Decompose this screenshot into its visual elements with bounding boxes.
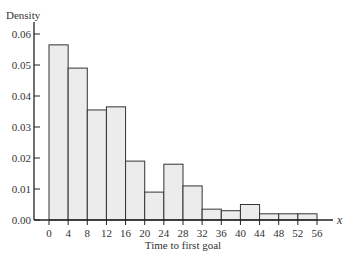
- histogram-bar: [49, 45, 68, 220]
- histogram-bar: [183, 186, 202, 220]
- histogram-bar: [145, 192, 164, 220]
- y-tick-label: 0.02: [12, 152, 31, 164]
- x-tick-label: 56: [312, 227, 324, 239]
- histogram-bar: [260, 214, 279, 220]
- x-tick-label: 4: [65, 227, 71, 239]
- histogram-bar: [87, 110, 106, 220]
- x-tick-label: 36: [216, 227, 228, 239]
- histogram-bar: [240, 205, 259, 221]
- x-tick-label: 28: [178, 227, 190, 239]
- histogram-bar: [68, 68, 87, 220]
- x-tick-label: 40: [235, 227, 247, 239]
- x-tick-label: 52: [292, 227, 303, 239]
- y-tick-label: 0.06: [12, 28, 32, 40]
- x-tick-label: 24: [158, 227, 170, 239]
- x-tick-label: 48: [273, 227, 285, 239]
- histogram-bar: [279, 214, 298, 220]
- y-axis-ticks: 0.000.010.020.030.040.050.06: [12, 28, 40, 226]
- x-tick-label: 20: [139, 227, 151, 239]
- x-variable-label: x: [336, 213, 343, 227]
- x-tick-label: 0: [46, 227, 52, 239]
- histogram-bar: [126, 161, 145, 220]
- y-tick-label: 0.03: [12, 121, 32, 133]
- histogram-bar: [298, 214, 317, 220]
- histogram-bars: [49, 45, 317, 220]
- y-tick-label: 0.04: [12, 90, 32, 102]
- histogram-bar: [106, 107, 125, 220]
- histogram-bar: [202, 209, 221, 220]
- x-tick-label: 12: [101, 227, 112, 239]
- y-tick-label: 0.05: [12, 59, 32, 71]
- x-tick-label: 32: [197, 227, 208, 239]
- histogram-bar: [221, 211, 240, 220]
- x-tick-label: 44: [254, 227, 266, 239]
- histogram-chart: 0.000.010.020.030.040.050.06 04812162024…: [0, 0, 354, 260]
- x-axis-label: Time to first goal: [145, 239, 221, 251]
- histogram-bar: [164, 164, 183, 220]
- y-tick-label: 0.00: [12, 214, 32, 226]
- x-tick-label: 8: [85, 227, 91, 239]
- y-tick-label: 0.01: [12, 183, 31, 195]
- y-axis-label: Density: [6, 9, 41, 21]
- x-axis-ticks: 048121620242832364044485256: [46, 220, 323, 239]
- x-tick-label: 16: [120, 227, 132, 239]
